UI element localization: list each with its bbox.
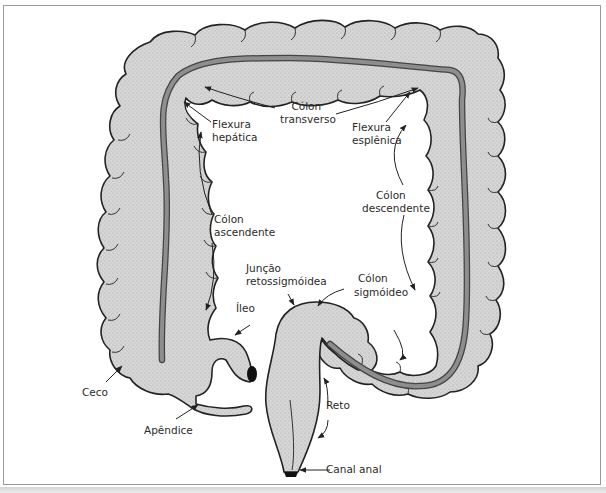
- label-colon-sigmoideo: Cólon sigmóideo: [354, 272, 408, 298]
- label-colon-descendente: Cólon descendente: [362, 189, 430, 214]
- diagram-stage: Cólon transverso Flexura hepática Flexur…: [0, 0, 606, 493]
- label-ceco: Ceco: [82, 386, 108, 398]
- colon-illustration: Cólon transverso Flexura hepática Flexur…: [0, 0, 606, 493]
- label-flexura-hepatica: Flexura hepática: [212, 118, 257, 143]
- ileum-opening: [247, 366, 257, 382]
- label-colon-ascendente: Cólon ascendente: [214, 213, 275, 238]
- label-ileo: Íleo: [236, 302, 255, 314]
- anus-opening: [284, 472, 298, 477]
- label-reto: Reto: [326, 399, 350, 411]
- label-juncao-retossigmoidea: Junção retossigmóidea: [245, 262, 327, 287]
- rectum: [266, 302, 377, 472]
- label-apendice: Apêndice: [144, 424, 193, 436]
- label-canal-anal: Canal anal: [326, 463, 382, 475]
- label-flexura-esplenica: Flexura esplênica: [352, 121, 402, 146]
